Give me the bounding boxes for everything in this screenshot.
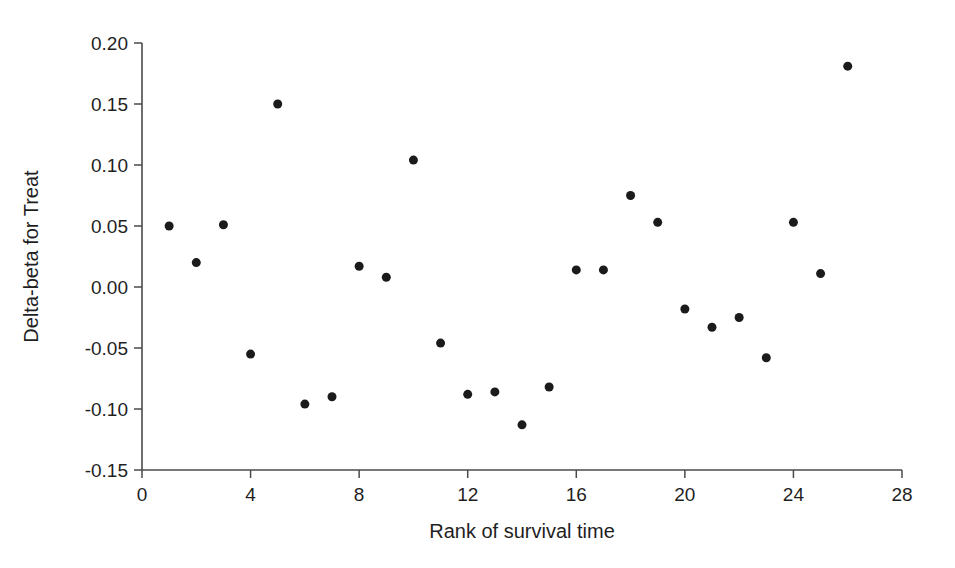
x-axis-ticks: 0481216202428 [137, 470, 913, 505]
data-point [626, 191, 635, 200]
data-point [328, 392, 337, 401]
data-point [165, 222, 174, 231]
data-point [545, 383, 554, 392]
x-tick-label: 20 [674, 484, 695, 505]
data-point [273, 100, 282, 109]
x-tick-label: 28 [891, 484, 912, 505]
data-point [463, 390, 472, 399]
x-tick-label: 16 [566, 484, 587, 505]
y-tick-label: -0.10 [85, 399, 128, 420]
data-point [599, 265, 608, 274]
data-point [490, 387, 499, 396]
data-point [708, 323, 717, 332]
data-point [382, 273, 391, 282]
y-tick-label: 0.20 [91, 33, 128, 54]
data-points-layer [165, 62, 853, 430]
plot-canvas: 0.200.150.100.050.00-0.05-0.10-0.15 0481… [0, 0, 955, 568]
y-tick-label: 0.05 [91, 216, 128, 237]
x-axis-title: Rank of survival time [429, 520, 615, 542]
x-tick-label: 24 [783, 484, 805, 505]
data-point [735, 313, 744, 322]
y-axis-title: Delta-beta for Treat [20, 170, 42, 343]
y-tick-label: 0.00 [91, 277, 128, 298]
y-axis-ticks: 0.200.150.100.050.00-0.05-0.10-0.15 [85, 33, 142, 481]
y-tick-label: 0.10 [91, 155, 128, 176]
data-point [192, 258, 201, 267]
x-tick-label: 12 [457, 484, 478, 505]
x-tick-label: 0 [137, 484, 148, 505]
data-point [680, 304, 689, 313]
data-point [409, 156, 418, 165]
data-point [843, 62, 852, 71]
data-point [300, 400, 309, 409]
data-point [653, 218, 662, 227]
data-point [762, 353, 771, 362]
data-point [436, 339, 445, 348]
data-point [572, 265, 581, 274]
data-point [355, 262, 364, 271]
scatter-plot-figure: 0.200.150.100.050.00-0.05-0.10-0.15 0481… [0, 0, 955, 568]
y-tick-label: -0.05 [85, 338, 128, 359]
y-tick-label: -0.15 [85, 460, 128, 481]
x-tick-label: 8 [354, 484, 365, 505]
y-tick-label: 0.15 [91, 94, 128, 115]
data-point [816, 269, 825, 278]
data-point [789, 218, 798, 227]
x-tick-label: 4 [245, 484, 256, 505]
axes-group [142, 43, 902, 470]
data-point [518, 420, 527, 429]
data-point [219, 220, 228, 229]
data-point [246, 350, 255, 359]
